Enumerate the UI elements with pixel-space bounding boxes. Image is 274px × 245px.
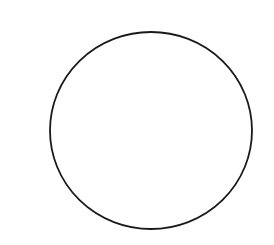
circle-outline (50, 32, 252, 229)
drawing-canvas (0, 0, 274, 245)
diagram-svg (0, 0, 274, 245)
